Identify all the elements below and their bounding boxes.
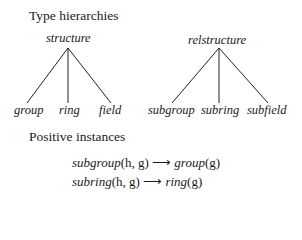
edge-structure-field xyxy=(68,48,111,103)
tree-leaf-subgroup: subgroup xyxy=(148,103,195,118)
edge-structure-group xyxy=(27,48,68,103)
edge-relstructure-subfield xyxy=(219,48,268,103)
tree-leaf-subring: subring xyxy=(201,103,239,118)
formula-rhs-args: (g) xyxy=(205,155,220,170)
formula-lhs-args: (h, g) xyxy=(121,155,149,170)
formula-rhs: ring xyxy=(165,174,187,189)
implies-arrow-icon: ⟶ xyxy=(152,155,171,170)
formula-lhs-args: (h, g) xyxy=(112,174,140,189)
implies-arrow-icon: ⟶ xyxy=(143,174,162,189)
tree-leaf-subfield: subfield xyxy=(247,103,287,118)
instance-formula-1: subgroup(h, g) ⟶ group(g) xyxy=(72,155,220,171)
tree-leaf-field: field xyxy=(99,103,121,118)
formula-rhs-args: (g) xyxy=(187,174,202,189)
tree-root-relstructure: relstructure xyxy=(188,33,246,48)
edge-relstructure-subgroup xyxy=(172,48,219,103)
positive-instances-heading: Positive instances xyxy=(29,129,125,145)
tree-root-structure: structure xyxy=(46,31,91,46)
formula-rhs: group xyxy=(174,155,205,170)
tree-leaf-ring: ring xyxy=(59,103,80,118)
instance-formula-2: subring(h, g) ⟶ ring(g) xyxy=(72,174,202,190)
formula-lhs: subring xyxy=(72,174,112,189)
formula-lhs: subgroup xyxy=(72,155,121,170)
tree-leaf-group: group xyxy=(14,103,43,118)
